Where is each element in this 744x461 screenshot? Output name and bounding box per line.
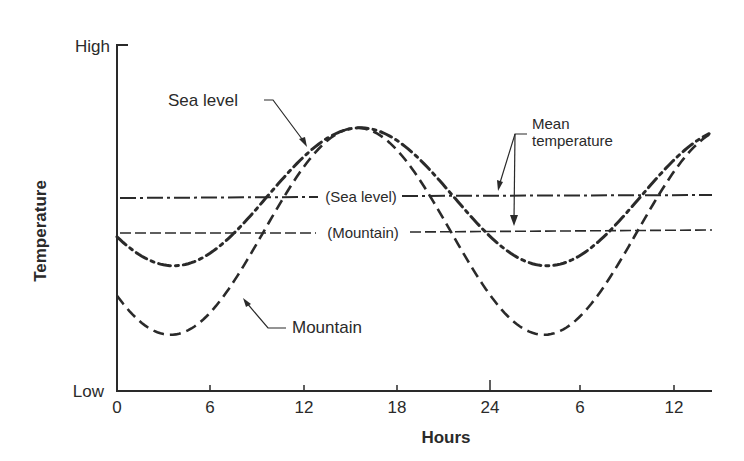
y-low-label: Low: [73, 382, 105, 401]
sea-level-label: Sea level: [168, 91, 238, 110]
x-tick-24: 24: [481, 398, 500, 417]
x-tick-0: 0: [112, 398, 121, 417]
temperature-chart: High Low Temperature 0 6 12 18 24 6 12 H…: [0, 0, 744, 461]
mean-mountain-arrow-icon: [510, 215, 518, 226]
mean-temp-label-line2: temperature: [532, 132, 613, 149]
mean-mountain-label: (Mountain): [327, 224, 399, 241]
mountain-mean-line-right: [410, 230, 712, 232]
x-tick-36: 12: [665, 398, 684, 417]
mean-mountain-leader: [514, 134, 515, 220]
x-tick-6: 6: [205, 398, 214, 417]
mountain-leader: [246, 302, 286, 328]
mean-sea-level-label: (Sea level): [325, 188, 397, 205]
mean-sea-arrow-icon: [497, 180, 503, 191]
x-tick-30: 6: [575, 398, 584, 417]
x-tick-12: 12: [295, 398, 314, 417]
sea-level-arrow-icon: [299, 137, 307, 147]
sea-level-mean-line-right: [402, 195, 712, 196]
x-tick-18: 18: [388, 398, 407, 417]
mean-temp-label-line1: Mean: [532, 115, 570, 132]
mountain-label: Mountain: [292, 318, 362, 337]
sea-level-leader: [264, 100, 305, 143]
y-axis-title: Temperature: [31, 180, 50, 282]
x-tick-labels: 0 6 12 18 24 6 12: [112, 398, 683, 417]
y-high-label: High: [75, 37, 110, 56]
sea-level-mean-line: [120, 197, 318, 198]
mean-temp-bracket: [499, 134, 527, 186]
x-axis-title: Hours: [421, 428, 470, 447]
x-axis-ticks: [210, 380, 674, 391]
